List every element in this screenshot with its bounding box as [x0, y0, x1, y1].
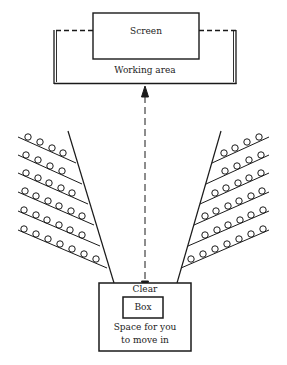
space-label-line1: Space for you: [99, 322, 191, 332]
right-seating-rows: [181, 134, 269, 268]
box-label: Box: [123, 302, 163, 312]
clear-label: Clear: [99, 284, 191, 294]
screen-label: Screen: [93, 26, 199, 36]
left-boundary-line: [68, 131, 114, 283]
sightline-arrow: [142, 86, 149, 292]
left-seating-rows: [18, 134, 107, 268]
working-area-label: Working area: [54, 65, 236, 75]
screen-box: [93, 13, 199, 59]
space-label-line2: to move in: [99, 335, 191, 345]
